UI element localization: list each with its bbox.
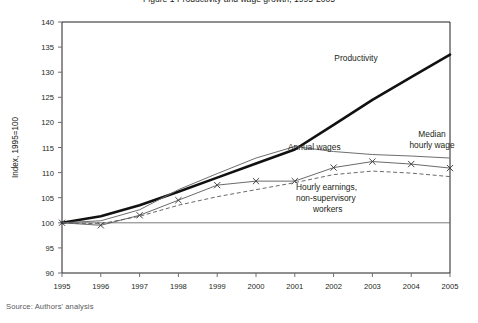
y-tick-label: 115 bbox=[42, 144, 54, 153]
x-tick-label: 1995 bbox=[54, 282, 71, 291]
y-tick-label: 120 bbox=[41, 118, 54, 127]
annotation-hourly-earnings-l2: non-supervisory bbox=[296, 193, 356, 203]
annotation-hourly-earnings-l1: Hourly earnings, bbox=[296, 182, 357, 192]
x-tick-label: 1999 bbox=[209, 282, 226, 291]
y-tick-label: 135 bbox=[41, 43, 54, 52]
x-axis-ticks: 1995199619971998199920002001200220032004… bbox=[54, 273, 459, 291]
annotation-hourly-earnings-l3: workers bbox=[312, 204, 342, 214]
annotation-annual-wages: Annual wages bbox=[288, 142, 341, 152]
x-tick-label: 1997 bbox=[131, 282, 148, 291]
annotation-median-hourly-wage-l2: hourly wage bbox=[409, 140, 455, 150]
x-tick-label: 2003 bbox=[364, 282, 381, 291]
annotation-productivity: Productivity bbox=[334, 53, 378, 63]
x-tick-label: 1996 bbox=[92, 282, 109, 291]
y-tick-label: 95 bbox=[46, 244, 54, 253]
plot-frame bbox=[62, 22, 450, 273]
series-hourly-earnings-non-supervisory-workers bbox=[62, 171, 450, 224]
marker-layer bbox=[59, 158, 453, 228]
x-tick-label: 2005 bbox=[442, 282, 459, 291]
y-tick-label: 100 bbox=[41, 219, 54, 228]
source-note: Source: Authors' analysis bbox=[6, 302, 94, 311]
y-tick-label: 130 bbox=[41, 68, 54, 77]
annotation-layer: ProductivityAnnual wagesMedianhourly wag… bbox=[288, 53, 455, 214]
series-productivity bbox=[62, 55, 450, 223]
y-tick-label: 90 bbox=[46, 269, 54, 278]
x-tick-label: 2001 bbox=[286, 282, 303, 291]
x-tick-label: 2000 bbox=[248, 282, 265, 291]
x-tick-label: 2004 bbox=[403, 282, 420, 291]
line-chart: 9095100105110115120125130135140 19951996… bbox=[0, 0, 478, 300]
y-axis-title-text: Index, 1995=100 bbox=[11, 116, 20, 178]
series-layer bbox=[62, 55, 450, 226]
y-axis-ticks: 9095100105110115120125130135140 bbox=[41, 18, 62, 278]
y-tick-label: 140 bbox=[41, 18, 54, 27]
y-tick-label: 105 bbox=[41, 194, 54, 203]
y-tick-label: 110 bbox=[42, 169, 54, 178]
figure-container: 9095100105110115120125130135140 19951996… bbox=[0, 0, 478, 323]
y-axis-title: Index, 1995=100 bbox=[11, 116, 20, 178]
data-point-marker bbox=[175, 197, 181, 203]
y-tick-label: 125 bbox=[41, 93, 54, 102]
x-tick-label: 2002 bbox=[325, 282, 342, 291]
annotation-median-hourly-wage-l1: Median bbox=[418, 129, 446, 139]
x-tick-label: 1998 bbox=[170, 282, 187, 291]
